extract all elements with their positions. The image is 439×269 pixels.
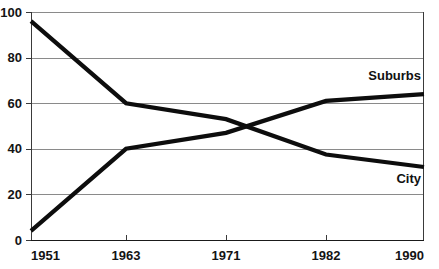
y-tick-label-20: 20 bbox=[8, 187, 22, 202]
x-tick-label-1982: 1982 bbox=[312, 248, 341, 263]
x-tick-label-1963: 1963 bbox=[112, 248, 141, 263]
y-tick-label-0: 0 bbox=[15, 233, 22, 248]
x-tick-label-1990: 1990 bbox=[395, 248, 424, 263]
chart-canvas: 020406080100 19511963197119821990 Suburb… bbox=[0, 0, 439, 269]
series-label-suburbs: Suburbs bbox=[368, 68, 421, 83]
series-label-city: City bbox=[396, 171, 421, 186]
x-tick-label-1951: 1951 bbox=[31, 248, 60, 263]
x-tick-label-1971: 1971 bbox=[212, 248, 241, 263]
y-tick-label-100: 100 bbox=[0, 5, 22, 20]
y-tick-label-80: 80 bbox=[8, 50, 22, 65]
line-chart: 020406080100 19511963197119821990 Suburb… bbox=[0, 0, 439, 269]
y-tick-label-60: 60 bbox=[8, 96, 22, 111]
y-tick-label-40: 40 bbox=[8, 141, 22, 156]
